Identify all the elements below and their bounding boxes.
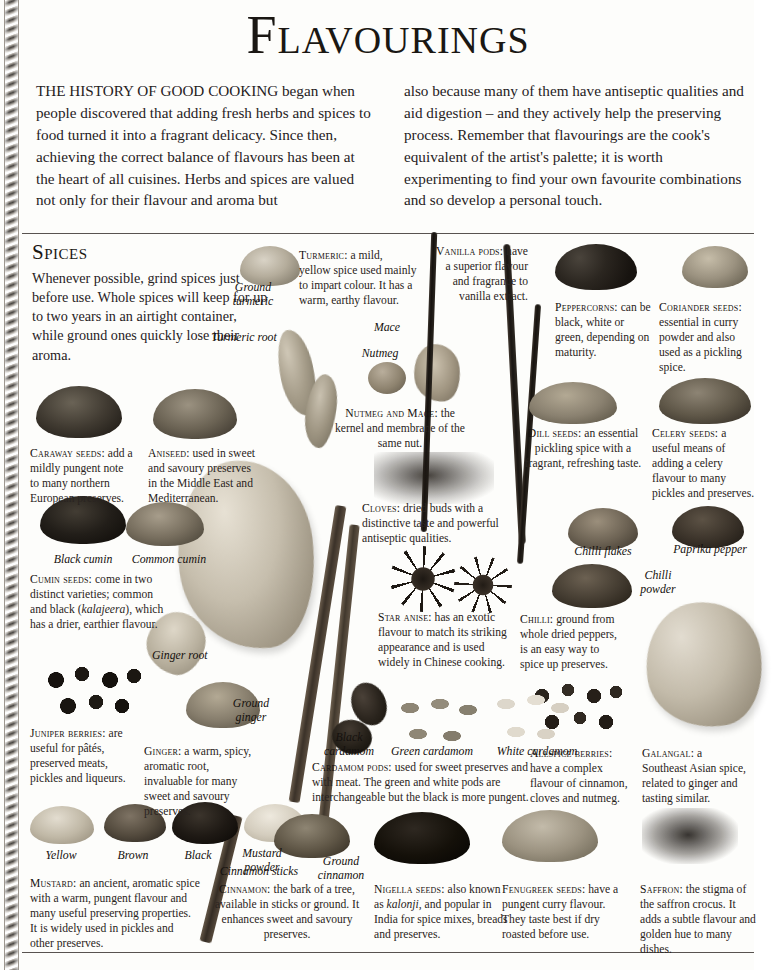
caption-nigella-italic: kalonji (387, 898, 419, 911)
celery-seeds-image (659, 378, 751, 424)
caption-mustard-label: Mustard: (30, 877, 77, 890)
caption-turmeric-label: Turmeric: (299, 249, 348, 262)
caption-saffron: Saffron: the stigma of the saffron crocu… (640, 882, 758, 957)
intro-column-right: also because many of them have antisepti… (404, 80, 744, 211)
caption-ginger: Ginger: a warm, spicy, aromatic root, in… (144, 744, 258, 819)
juniper-berries-image (42, 664, 148, 722)
label-ground-turmeric: Ground turmeric (218, 280, 288, 308)
caption-coriander: Coriander seeds: essential in curry powd… (659, 300, 757, 375)
turmeric-root-image (271, 326, 323, 419)
caption-juniper: Juniper berries: are useful for pâtés, p… (30, 726, 142, 786)
caption-star-anise-label: Star anise: (378, 611, 432, 624)
white-cardamom-image (490, 690, 578, 752)
caption-saffron-label: Saffron: (640, 883, 683, 896)
fenugreek-seeds-image (502, 810, 598, 862)
caption-nutmeg-mace-label: Nutmeg and Mace: (345, 407, 438, 420)
label-common-cumin: Common cumin (120, 552, 218, 566)
caption-peppercorns: Peppercorns: can be black, white or gree… (555, 300, 651, 360)
label-ground-ginger: Ground ginger (220, 696, 282, 724)
chilli-powder-image (552, 564, 632, 608)
aniseed-image (153, 389, 237, 439)
galangal-image (636, 593, 772, 737)
caption-celery: Celery seeds: a useful means of adding a… (652, 426, 756, 501)
label-brown: Brown (102, 848, 164, 862)
caption-aniseed-label: Aniseed: (148, 447, 190, 460)
intro-column-left: THE HISTORY OF GOOD COOKING began when p… (36, 80, 376, 211)
mace-image (411, 342, 463, 404)
black-cardamom-image (345, 677, 393, 731)
caption-fenugreek: Fenugreek seeds: have a pungent curry fl… (502, 882, 620, 942)
caption-mustard: Mustard: an ancient, aromatic spice with… (30, 876, 200, 951)
caption-chilli: Chilli: ground from whole dried peppers,… (520, 612, 624, 672)
coriander-seeds-image (682, 246, 748, 288)
caption-fenugreek-label: Fenugreek seeds: (502, 883, 585, 896)
caption-cardamom-label: Cardamom pods: (312, 761, 392, 774)
label-nutmeg: Nutmeg (352, 346, 408, 360)
label-turmeric-root: Turmeric root (210, 330, 278, 344)
caption-coriander-label: Coriander seeds: (659, 301, 742, 314)
caption-dill: Dill seeds: an essential pickling spice … (522, 426, 644, 471)
star-anise-image-2 (454, 556, 512, 614)
caption-allspice-label: Allspice berries: (530, 747, 612, 760)
caption-cinnamon-label: Cinnamon: (219, 883, 270, 896)
caption-cinnamon: Cinnamon: the bark of a tree, available … (212, 882, 362, 942)
label-yellow: Yellow (30, 848, 92, 862)
cloves-image (374, 452, 494, 504)
caption-caraway: Caraway seeds: add a mildly pungent note… (30, 446, 134, 506)
label-mace: Mace (362, 320, 412, 334)
caption-ginger-label: Ginger: (144, 745, 181, 758)
caption-vanilla: Vanilla pods: have a superior flavour an… (432, 244, 528, 304)
caption-aniseed: Aniseed: used in sweet and savoury prese… (148, 446, 262, 506)
caption-galangal: Galangal: a Southeast Asian spice, relat… (642, 746, 750, 806)
caption-allspice: Allspice berries: have a complex flavour… (530, 746, 634, 806)
caption-cumin-italic: kalajeera (82, 603, 126, 616)
label-black-cumin: Black cumin (42, 552, 124, 566)
label-chilli-flakes: Chilli flakes (562, 544, 644, 558)
caption-galangal-label: Galangal: (642, 747, 694, 760)
label-black: Black (170, 848, 226, 862)
caraway-seeds-image (36, 386, 122, 438)
caption-allspice-text: have a complex flavour of cinnamon, clov… (530, 762, 628, 805)
label-chilli-powder: Chilli powder (630, 568, 686, 596)
common-cumin-image (126, 502, 204, 546)
label-cinnamon-sticks: Cinnamon sticks (212, 864, 306, 878)
page-content: Flavourings THE HISTORY OF GOOD COOKING … (22, 0, 754, 970)
caption-peppercorns-label: Peppercorns: (555, 301, 618, 314)
caption-nigella: Nigella seeds: also known as kalonji, an… (374, 882, 508, 942)
caption-cumin-label: Cumin seeds: (30, 573, 92, 586)
nigella-seeds-image (374, 812, 470, 864)
caption-celery-label: Celery seeds: (652, 427, 718, 440)
caption-vanilla-label: Vanilla pods: (436, 245, 503, 258)
rope-border-decoration (4, 0, 19, 970)
allspice-berries-image (530, 682, 628, 738)
label-ground-cinnamon: Ground cinnamon (310, 854, 372, 882)
spices-panel: Spices Whenever possible, grind spices j… (22, 234, 754, 952)
label-black-cardamom: Black cardamom (318, 730, 380, 758)
caption-dill-label: Dill seeds: (528, 427, 582, 440)
label-green-cardamom: Green cardamom (378, 744, 486, 758)
label-ginger-root: Ginger root (152, 648, 242, 662)
caption-star-anise: Star anise: has an exotic flavour to mat… (378, 610, 508, 670)
caption-nutmeg-mace: Nutmeg and Mace: the kernel and membrane… (330, 406, 470, 451)
intro-text: THE HISTORY OF GOOD COOKING began when p… (22, 62, 754, 211)
spices-heading: Spices (32, 238, 268, 267)
saffron-image (642, 808, 738, 864)
label-paprika-pepper: Paprika pepper (662, 542, 758, 556)
star-anise-image-1 (390, 546, 456, 612)
caption-caraway-label: Caraway seeds: (30, 447, 105, 460)
nutmeg-image (368, 362, 406, 394)
page-title: Flavourings (22, 0, 754, 62)
caption-cardamom: Cardamom pods: used for sweet preserves … (312, 760, 532, 805)
rope-border-edge-right (18, 0, 19, 970)
dill-seeds-image (529, 382, 617, 424)
caption-cumin: Cumin seeds: come in two distinct variet… (30, 572, 164, 632)
caption-cloves-label: Cloves: (362, 502, 400, 515)
peppercorns-image (555, 244, 637, 290)
rope-border-edge-left (4, 0, 5, 970)
yellow-mustard-image (30, 806, 94, 844)
caption-cloves: Cloves: dried buds with a distinctive ta… (362, 501, 502, 546)
caption-turmeric: Turmeric: a mild, yellow spice used main… (299, 248, 417, 308)
caption-juniper-label: Juniper berries: (30, 727, 106, 740)
caption-coriander-text: essential in curry powder and also used … (659, 316, 742, 374)
